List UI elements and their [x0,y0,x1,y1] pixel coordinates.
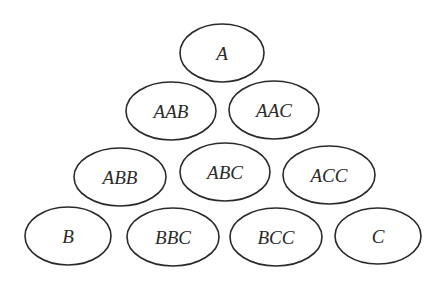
ternary-triangle-diagram: AAABAACABBABCACCBBBCBCCC [0,0,444,287]
node-label: BCC [258,227,295,248]
node-label: C [372,226,385,247]
node-label: AAC [254,100,292,121]
node-acc: ACC [283,146,375,204]
node-c: C [335,208,421,264]
node-label: ABC [205,162,243,183]
node-abb: ABB [74,148,166,206]
node-label: B [62,226,74,247]
node-label: BBC [155,227,191,248]
node-label: ABB [101,167,138,188]
node-b: B [25,207,111,265]
node-aab: AAB [126,82,216,140]
node-label: A [214,43,228,64]
node-bcc: BCC [230,208,322,266]
node-label: ACC [309,165,348,186]
node-a: A [180,24,264,82]
node-abc: ABC [180,143,270,201]
node-bbc: BBC [127,208,219,266]
node-label: AAB [152,101,189,122]
node-aac: AAC [229,81,319,139]
